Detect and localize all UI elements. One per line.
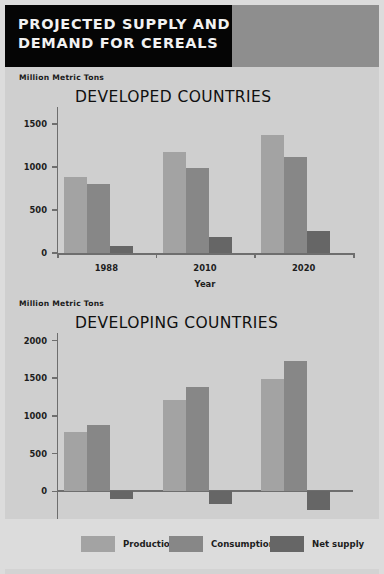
- chart-title: DEVELOPED COUNTRIES: [75, 88, 271, 106]
- bar-consumption-2020: [284, 361, 307, 492]
- bar-net-supply-2020: [307, 231, 330, 253]
- legend-swatch-icon: [81, 536, 115, 552]
- y-axis-tick-label: 1000: [5, 411, 47, 421]
- bar-production-1988: [64, 177, 87, 253]
- bar-net-supply-1988: [110, 491, 133, 499]
- legend-label: Net supply: [312, 539, 364, 549]
- chart-legend: ProductionConsumptionNet supply: [5, 519, 379, 569]
- y-axis-tick-label: 0: [5, 248, 47, 258]
- y-axis-tick-mark: [52, 209, 57, 211]
- bar-consumption-1988: [87, 425, 110, 491]
- legend-label: Consumption: [211, 539, 275, 549]
- y-axis-unit-label: Million Metric Tons: [19, 299, 104, 308]
- legend-swatch-icon: [270, 536, 304, 552]
- x-axis-tick-label: 2010: [156, 263, 255, 273]
- y-axis-tick-mark: [52, 377, 57, 379]
- bar-production-2020: [261, 379, 284, 491]
- y-axis-tick-mark: [52, 340, 57, 342]
- page-edge-right: [379, 0, 384, 574]
- x-axis-tick-label: 2020: [254, 263, 353, 273]
- x-axis-tick-label: 1988: [57, 263, 156, 273]
- page-title-line-2: DEMAND FOR CEREALS: [18, 34, 232, 53]
- legend-label: Production: [123, 539, 176, 549]
- y-axis-tick-label: 1500: [5, 373, 47, 383]
- x-axis-tick-mark: [254, 253, 256, 258]
- y-axis-tick-label: 500: [5, 449, 47, 459]
- x-axis-line: [57, 253, 353, 255]
- bar-consumption-2010: [186, 387, 209, 492]
- y-axis-tick-label: 0: [5, 486, 47, 496]
- infographic-page: PROJECTED SUPPLY AND DEMAND FOR CEREALS …: [0, 0, 384, 574]
- chart-title: DEVELOPING COUNTRIES: [75, 314, 278, 332]
- x-axis-tick-mark: [57, 253, 59, 258]
- charts-panel: Million Metric TonsDEVELOPED COUNTRIES05…: [5, 67, 379, 519]
- bar-consumption-2010: [186, 168, 209, 253]
- bar-production-2010: [163, 152, 186, 253]
- title-block: PROJECTED SUPPLY AND DEMAND FOR CEREALS: [5, 5, 232, 67]
- y-axis-tick-mark: [52, 415, 57, 417]
- bar-consumption-1988: [87, 184, 110, 253]
- bar-production-1988: [64, 432, 87, 491]
- y-axis-tick-mark: [52, 491, 57, 493]
- header-band: PROJECTED SUPPLY AND DEMAND FOR CEREALS: [5, 5, 379, 67]
- x-axis-tick-mark: [353, 253, 355, 258]
- page-title-line-1: PROJECTED SUPPLY AND: [18, 15, 232, 34]
- bar-consumption-2020: [284, 157, 307, 253]
- y-axis-tick-mark: [52, 166, 57, 168]
- y-axis-tick-label: 1500: [5, 119, 47, 129]
- x-axis-title: Year: [57, 279, 353, 289]
- y-axis-unit-label: Million Metric Tons: [19, 73, 104, 82]
- bar-net-supply-2020: [307, 491, 330, 510]
- y-axis-tick-label: 500: [5, 205, 47, 215]
- bar-net-supply-2010: [209, 491, 232, 504]
- legend-swatch-icon: [169, 536, 203, 552]
- y-axis-tick-mark: [52, 453, 57, 455]
- y-axis-tick-label: 2000: [5, 336, 47, 346]
- bar-production-2020: [261, 135, 284, 253]
- bar-net-supply-1988: [110, 246, 133, 253]
- bar-net-supply-2010: [209, 237, 232, 253]
- bar-production-2010: [163, 400, 186, 492]
- y-axis-tick-label: 1000: [5, 162, 47, 172]
- y-axis-tick-mark: [52, 123, 57, 125]
- x-axis-tick-mark: [156, 253, 158, 258]
